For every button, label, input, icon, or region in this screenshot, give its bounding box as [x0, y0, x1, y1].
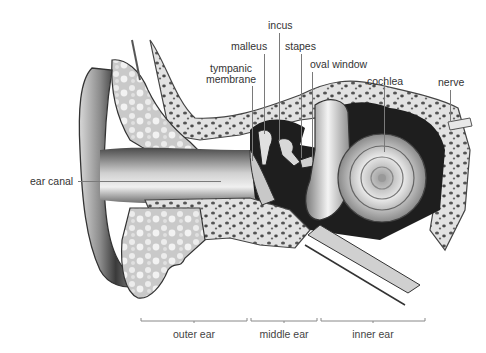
oval-window-leader	[312, 72, 313, 162]
label-incus: incus	[268, 19, 293, 31]
label-nerve: nerve	[438, 76, 464, 88]
tympanic-membrane-leader	[252, 86, 253, 161]
label-stapes: stapes	[285, 40, 316, 52]
cochlea-shape	[338, 134, 426, 222]
label-oval-window: oval window	[310, 58, 367, 70]
label-malleus: malleus	[231, 40, 267, 52]
region-label-outer-ear: outer ear	[164, 328, 224, 340]
region-brackets	[141, 318, 425, 323]
stapes-leader	[301, 54, 302, 158]
region-label-inner-ear: inner ear	[343, 328, 403, 340]
lower-cartilage	[122, 208, 205, 298]
incus-leader	[279, 33, 280, 141]
nerve-leader	[450, 90, 451, 122]
ear-canal-leader	[78, 181, 221, 182]
label-ear-canal: ear canal	[30, 175, 73, 187]
cochlea-leader	[384, 82, 385, 152]
ear-canal-shape	[100, 148, 255, 204]
region-label-middle-ear: middle ear	[254, 328, 314, 340]
malleus-leader	[264, 54, 265, 134]
label-tympanic-membrane-line2: membrane	[205, 73, 257, 85]
label-cochlea: cochlea	[367, 75, 403, 87]
